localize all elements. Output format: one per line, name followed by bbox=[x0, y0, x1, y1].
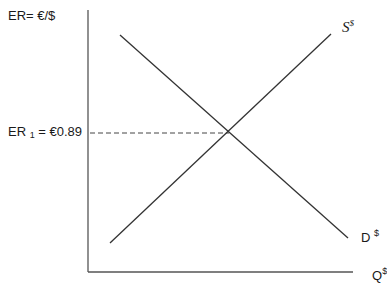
demand-label: D $ bbox=[361, 228, 379, 245]
demand-label-sup: $ bbox=[374, 228, 379, 238]
supply-label: S$ bbox=[342, 18, 354, 36]
supply-label-main: S bbox=[342, 19, 350, 35]
x-label-main: Q bbox=[372, 268, 382, 283]
x-label-sup: $ bbox=[382, 266, 387, 276]
supply-label-sup: $ bbox=[350, 18, 355, 28]
y-axis-label: ER= €/$ bbox=[8, 8, 55, 23]
supply-curve bbox=[110, 34, 331, 243]
equilibrium-rate-label: ER 1 = €0.89 bbox=[8, 124, 82, 140]
exchange-rate-chart bbox=[0, 0, 387, 284]
er-main: ER bbox=[8, 124, 26, 139]
demand-curve bbox=[120, 35, 348, 238]
x-axis-label: Q$ bbox=[372, 266, 387, 283]
er-value: = €0.89 bbox=[35, 124, 82, 139]
demand-label-main: D bbox=[361, 230, 370, 245]
